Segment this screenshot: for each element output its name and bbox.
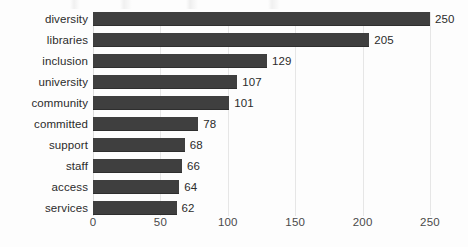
bar-row-access[interactable]: 64: [93, 180, 468, 194]
bar-row-diversity[interactable]: 250: [93, 12, 468, 26]
bar-value-committed: 78: [203, 118, 216, 130]
bar-diversity[interactable]: [93, 12, 430, 26]
bar-support[interactable]: [93, 138, 185, 152]
x-tick-250: 250: [420, 216, 440, 228]
bar-row-libraries[interactable]: 205: [93, 33, 468, 47]
category-axis-labels: diversitylibrariesinclusionuniversitycom…: [0, 12, 88, 210]
bar-community[interactable]: [93, 96, 229, 110]
bars-layer: 2502051291071017868666462: [93, 12, 468, 210]
bar-university[interactable]: [93, 75, 237, 89]
bar-value-community: 101: [234, 97, 254, 109]
bar-row-support[interactable]: 68: [93, 138, 468, 152]
x-tick-200: 200: [353, 216, 373, 228]
category-label-support: support: [49, 138, 88, 152]
bar-staff[interactable]: [93, 159, 182, 173]
x-tick-50: 50: [154, 216, 167, 228]
category-label-staff: staff: [66, 159, 88, 173]
bar-libraries[interactable]: [93, 33, 369, 47]
bar-committed[interactable]: [93, 117, 198, 131]
category-label-access: access: [52, 180, 88, 194]
bar-value-staff: 66: [187, 160, 200, 172]
bar-value-inclusion: 129: [272, 55, 292, 67]
bar-row-committed[interactable]: 78: [93, 117, 468, 131]
bar-row-university[interactable]: 107: [93, 75, 468, 89]
category-label-diversity: diversity: [45, 12, 88, 26]
category-label-inclusion: inclusion: [42, 54, 88, 68]
x-tick-150: 150: [285, 216, 305, 228]
category-label-committed: committed: [34, 117, 88, 131]
bar-row-staff[interactable]: 66: [93, 159, 468, 173]
bar-chart: diversitylibrariesinclusionuniversitycom…: [0, 0, 468, 247]
bar-inclusion[interactable]: [93, 54, 267, 68]
bar-value-libraries: 205: [374, 34, 394, 46]
category-label-libraries: libraries: [47, 33, 88, 47]
bar-row-community[interactable]: 101: [93, 96, 468, 110]
scan-artifact-band: [0, 0, 468, 9]
bar-value-diversity: 250: [435, 13, 455, 25]
bar-row-inclusion[interactable]: 129: [93, 54, 468, 68]
bar-value-services: 62: [182, 202, 195, 214]
bar-value-access: 64: [184, 181, 197, 193]
category-label-university: university: [38, 75, 88, 89]
x-tick-0: 0: [90, 216, 97, 228]
bar-row-services[interactable]: 62: [93, 201, 468, 215]
bar-access[interactable]: [93, 180, 179, 194]
bar-value-university: 107: [242, 76, 262, 88]
category-label-community: community: [32, 96, 89, 110]
bar-value-support: 68: [190, 139, 203, 151]
x-tick-100: 100: [218, 216, 238, 228]
x-axis-tick-labels: 050100150200250: [0, 216, 468, 232]
category-label-services: services: [45, 201, 88, 215]
bar-services[interactable]: [93, 201, 177, 215]
